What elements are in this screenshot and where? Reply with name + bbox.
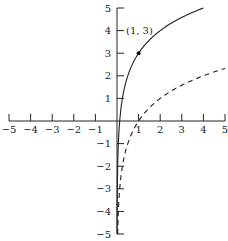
y-tick-label: −5 <box>96 229 111 240</box>
x-tick-label: 5 <box>222 124 228 135</box>
y-tick-label: −2 <box>96 161 111 172</box>
chart: −5−4−3−2−11234554321−1−2−3−4−5 (1, 3) <box>0 0 228 241</box>
y-tick-label: 5 <box>105 3 111 14</box>
y-tick-label: 4 <box>105 25 111 36</box>
x-tick-label: −4 <box>23 124 38 135</box>
y-tick-label: 2 <box>105 70 111 81</box>
x-tick-label: 3 <box>179 124 185 135</box>
point-label: (1, 3) <box>126 25 153 36</box>
y-tick-label: −4 <box>96 206 111 217</box>
x-tick-label: −3 <box>45 124 60 135</box>
y-tick-label: 1 <box>105 93 111 104</box>
x-tick-label: 2 <box>157 124 163 135</box>
x-tick-label: −2 <box>66 124 81 135</box>
x-tick-label: −5 <box>2 124 17 135</box>
x-tick-label: 4 <box>200 124 206 135</box>
dashed-curve <box>118 69 225 234</box>
y-tick-label: −1 <box>96 138 111 149</box>
y-tick-label: −3 <box>96 183 111 194</box>
point-marker <box>137 51 141 55</box>
x-tick-label: −1 <box>88 124 103 135</box>
y-tick-label: 3 <box>105 48 111 59</box>
x-tick-label: 1 <box>135 124 141 135</box>
